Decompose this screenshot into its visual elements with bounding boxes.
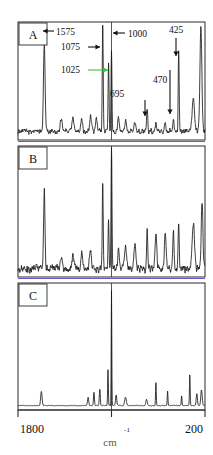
x-axis-max-label: 200	[185, 422, 203, 436]
panel-letter-c: C	[29, 289, 37, 303]
arrow-1075	[88, 44, 100, 49]
arrow-1000-head	[113, 30, 118, 35]
arrow-425	[173, 38, 178, 56]
arrow-1025-head	[104, 67, 109, 72]
panel-a-annotations: 1575107510251000695470425	[43, 25, 183, 116]
arrow-1000	[113, 30, 125, 35]
spectra-svg: ABC15751075102510006954704251800200cm-1	[0, 0, 213, 455]
arrow-470-head	[167, 110, 172, 115]
annot-label-1075: 1075	[61, 42, 80, 52]
panel-letter-a: A	[29, 28, 38, 42]
arrow-425-head	[173, 52, 178, 57]
arrow-1025	[88, 67, 108, 72]
annot-label-1025: 1025	[61, 65, 80, 75]
x-axis-min-label: 1800	[20, 422, 44, 436]
annot-label-695: 695	[110, 89, 125, 99]
raman-spectra-figure: ABC15751075102510006954704251800200cm-1	[0, 0, 213, 455]
x-axis: 1800200cm-1	[18, 410, 205, 448]
panel-a: A	[18, 22, 205, 140]
arrow-1075-head	[96, 44, 101, 49]
x-axis-unit-label: cm	[103, 436, 117, 448]
annot-label-1575: 1575	[56, 27, 75, 37]
annot-label-470: 470	[153, 75, 168, 85]
panel-b: B	[18, 146, 205, 277]
x-axis-unit-exponent: -1	[124, 426, 130, 434]
arrow-470	[167, 70, 172, 114]
panel-c: C	[18, 283, 205, 410]
panel-letter-b: B	[29, 152, 37, 166]
annot-label-425: 425	[169, 25, 184, 35]
annot-label-1000: 1000	[128, 29, 147, 39]
